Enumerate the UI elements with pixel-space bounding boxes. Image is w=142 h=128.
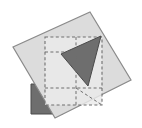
geometry-figure: dark gray block (lower left)large rotate… <box>0 0 142 128</box>
